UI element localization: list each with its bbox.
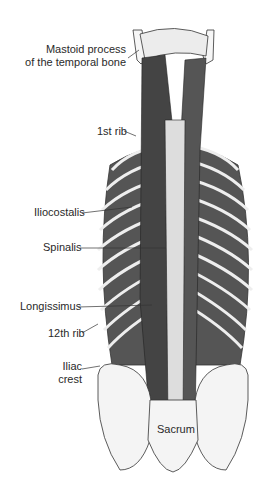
label-mastoid-process: Mastoid process of the temporal bone [20,43,126,69]
label-first-rib: 1st rib [97,125,127,138]
anatomy-figure: Mastoid process of the temporal bone 1st… [0,0,274,500]
label-sacrum: Sacrum [157,423,195,436]
label-iliac-crest: Iliac crest [50,360,82,386]
erector-spinae-illustration [0,0,274,500]
label-mastoid-line1: Mastoid process [20,43,126,56]
label-iliocostalis: Iliocostalis [34,206,85,219]
label-iliac-line1: Iliac [50,360,82,373]
muscle-columns [140,55,206,420]
label-twelfth-rib: 12th rib [48,327,85,340]
label-longissimus: Longissimus [20,300,81,313]
label-spinalis: Spinalis [43,241,82,254]
label-iliac-line2: crest [50,373,82,386]
label-mastoid-line2: of the temporal bone [20,56,126,69]
